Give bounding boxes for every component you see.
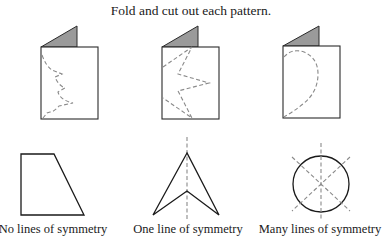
card-face <box>41 47 98 119</box>
circle-figure <box>292 143 350 219</box>
folded-card-tree <box>41 26 98 119</box>
caption-one-symmetry: One line of symmetry <box>123 222 253 237</box>
folded-card-star <box>162 26 219 119</box>
card-flap <box>162 26 198 47</box>
caption-no-symmetry: No lines of symmetry <box>0 222 118 237</box>
symmetry-diagram <box>0 0 382 240</box>
card-flap <box>283 26 319 46</box>
folded-card-heart <box>283 26 340 118</box>
caption-many-symmetry: Many lines of symmetry <box>255 222 382 237</box>
card-flap <box>41 26 77 47</box>
arrowhead-figure <box>153 137 219 220</box>
arrowhead-shape <box>153 153 219 215</box>
card-face <box>283 46 340 118</box>
trapezoid-shape <box>21 154 84 215</box>
